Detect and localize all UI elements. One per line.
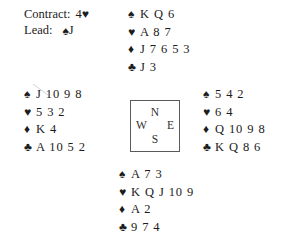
club-icon: ♣ bbox=[24, 139, 36, 157]
bridge-hand-diagram: Contract:4♥ Lead:♠J ♠ K Q 6 ♥ A 8 7 ♦ J … bbox=[0, 0, 299, 252]
heart-icon: ♥ bbox=[82, 6, 89, 22]
east-diamonds-row: ♦ Q 10 9 8 bbox=[203, 121, 266, 139]
south-clubs-row: ♣ 9 7 4 bbox=[119, 219, 194, 237]
north-hearts-row: ♥ A 8 7 bbox=[128, 24, 190, 42]
club-icon: ♣ bbox=[203, 139, 215, 157]
west-diamonds-cards: K 4 bbox=[36, 121, 57, 139]
north-spades-row: ♠ K Q 6 bbox=[128, 6, 190, 24]
contract-row: Contract:4♥ bbox=[24, 6, 89, 22]
north-clubs-row: ♣ J 3 bbox=[128, 59, 190, 77]
south-hearts-row: ♥ K Q J 10 9 bbox=[119, 184, 194, 202]
west-spades-row: ♠ J 10 9 8 bbox=[24, 86, 86, 104]
hand-east: ♠ 5 4 2 ♥ 6 4 ♦ Q 10 9 8 ♣ K Q 8 6 bbox=[203, 86, 266, 156]
heart-icon: ♥ bbox=[128, 24, 140, 42]
club-icon: ♣ bbox=[128, 59, 140, 77]
west-clubs-row: ♣ A 10 5 2 bbox=[24, 139, 86, 157]
diamond-icon: ♦ bbox=[119, 201, 131, 219]
north-clubs-cards: J 3 bbox=[140, 59, 157, 77]
north-diamonds-cards: J 7 6 5 3 bbox=[140, 41, 190, 59]
heart-icon: ♥ bbox=[24, 104, 36, 122]
west-clubs-cards: A 10 5 2 bbox=[36, 139, 86, 157]
east-hearts-row: ♥ 6 4 bbox=[203, 104, 266, 122]
hand-south: ♠ A 7 3 ♥ K Q J 10 9 ♦ A 2 ♣ 9 7 4 bbox=[119, 166, 194, 236]
diamond-icon: ♦ bbox=[203, 121, 215, 139]
north-diamonds-row: ♦ J 7 6 5 3 bbox=[128, 41, 190, 59]
west-hearts-cards: 5 3 2 bbox=[36, 104, 66, 122]
spade-icon: ♠ bbox=[203, 86, 215, 104]
heart-icon: ♥ bbox=[119, 184, 131, 202]
contract-lead-block: Contract:4♥ Lead:♠J bbox=[24, 6, 89, 39]
south-clubs-cards: 9 7 4 bbox=[131, 219, 161, 237]
spade-icon: ♠ bbox=[119, 166, 131, 184]
lead-rank: J bbox=[69, 23, 74, 37]
east-spades-row: ♠ 5 4 2 bbox=[203, 86, 266, 104]
compass-box: N W E S bbox=[130, 100, 180, 152]
compass-west-label: W bbox=[136, 120, 147, 132]
south-diamonds-cards: A 2 bbox=[131, 201, 151, 219]
diamond-icon: ♦ bbox=[24, 121, 36, 139]
compass-south-label: S bbox=[152, 134, 158, 146]
spade-icon: ♠ bbox=[24, 86, 36, 104]
contract-label: Contract: bbox=[24, 7, 71, 21]
west-hearts-row: ♥ 5 3 2 bbox=[24, 104, 86, 122]
club-icon: ♣ bbox=[119, 219, 131, 237]
hand-north: ♠ K Q 6 ♥ A 8 7 ♦ J 7 6 5 3 ♣ J 3 bbox=[128, 6, 190, 76]
south-diamonds-row: ♦ A 2 bbox=[119, 201, 194, 219]
north-hearts-cards: A 8 7 bbox=[140, 24, 172, 42]
west-spades-cards: J 10 9 8 bbox=[36, 86, 82, 104]
compass-east-label: E bbox=[167, 120, 174, 132]
west-diamonds-row: ♦ K 4 bbox=[24, 121, 86, 139]
compass-north-label: N bbox=[151, 107, 159, 119]
diamond-icon: ♦ bbox=[128, 41, 140, 59]
east-hearts-cards: 6 4 bbox=[215, 104, 233, 122]
east-diamonds-cards: Q 10 9 8 bbox=[215, 121, 266, 139]
east-clubs-row: ♣ K Q 8 6 bbox=[203, 139, 266, 157]
south-spades-row: ♠ A 7 3 bbox=[119, 166, 194, 184]
south-spades-cards: A 7 3 bbox=[131, 166, 163, 184]
north-spades-cards: K Q 6 bbox=[140, 6, 175, 24]
south-hearts-cards: K Q J 10 9 bbox=[131, 184, 194, 202]
east-spades-cards: 5 4 2 bbox=[215, 86, 245, 104]
heart-icon: ♥ bbox=[203, 104, 215, 122]
hand-west: ♠ J 10 9 8 ♥ 5 3 2 ♦ K 4 ♣ A 10 5 2 bbox=[24, 86, 86, 156]
east-clubs-cards: K Q 8 6 bbox=[215, 139, 261, 157]
spade-icon: ♠ bbox=[128, 6, 140, 24]
lead-label: Lead: bbox=[24, 23, 52, 37]
lead-row: Lead:♠J bbox=[24, 22, 89, 38]
